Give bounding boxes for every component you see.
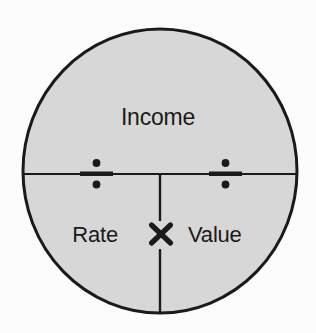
divide-right-dot-top [222,159,230,167]
income-label: Income [0,106,316,129]
divide-right-bar [209,172,242,177]
divide-right-dot-bottom [222,181,230,189]
rate-label: Rate [0,224,160,246]
divide-left-dot-top [93,159,101,167]
circle-diagram-svg [0,0,316,333]
value-label: Value [160,224,316,246]
diagram-canvas: Income Rate Value [0,0,316,333]
divide-left-bar [80,172,113,177]
divide-left-dot-bottom [93,181,101,189]
